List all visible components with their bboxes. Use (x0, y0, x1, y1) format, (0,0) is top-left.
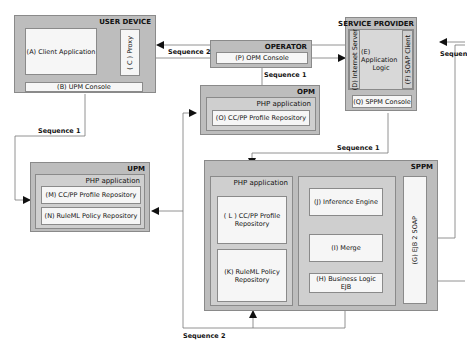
proxy: ( C ) Proxy (120, 29, 140, 76)
client-application: (A) Client Application (25, 28, 97, 75)
upm-console: (B) UPM Console (25, 82, 143, 92)
service-provider-box: SERVICE PROVIDER (D) Internet Server (E)… (345, 17, 417, 111)
upm-title: UPM (127, 165, 145, 173)
sp-inner: (D) Internet Server (E) Application Logi… (348, 29, 414, 90)
sppm-logic-container: (J) Inference Engine (I) Merge (H) Busin… (298, 176, 396, 306)
user-device-title: USER DEVICE (99, 18, 151, 26)
merge: (I) Merge (309, 234, 383, 262)
soap-client: (F) SOAP Client (402, 30, 413, 89)
operator-box: OPERATOR (P) OPM Console (210, 40, 312, 68)
sequence-right-partial-label: Sequen (440, 50, 467, 58)
sppm-policy-repository: (K) RuleML Policy Repository (217, 249, 287, 302)
user-device-box: USER DEVICE (A) Client Application ( C )… (14, 15, 156, 93)
application-logic: (E) Application Logic (361, 30, 401, 89)
sequence-1-upm-label: Sequence 1 (38, 127, 80, 135)
upm-php-app: PHP application (M) CC/PP Profile Reposi… (35, 174, 145, 229)
operator-title: OPERATOR (265, 43, 307, 51)
opm-php-app: PHP application (O) CC/PP Profile Reposi… (206, 97, 316, 131)
sppm-console: (Q) SPPM Console (352, 95, 412, 108)
sequence-1-sppm-label: Sequence 1 (337, 144, 379, 152)
upm-box: UPM PHP application (M) CC/PP Profile Re… (30, 162, 150, 232)
service-provider-title: SERVICE PROVIDER (338, 20, 414, 28)
upm-profile-repository: (M) CC/PP Profile Repository (41, 186, 141, 204)
sequence-2-top-label: Sequence 2 (168, 48, 210, 56)
opm-console: (P) OPM Console (216, 52, 308, 64)
sppm-php-app: PHP application ( L ) CC/PP Profile Repo… (210, 176, 293, 306)
opm-title: OPM (297, 88, 315, 96)
sequence-2-bottom-label: Sequence 2 (183, 332, 225, 340)
opm-profile-repository: (O) CC/PP Profile Repository (212, 110, 310, 126)
upm-policy-repository: (N) RuleML Policy Repository (41, 207, 141, 225)
business-logic-ejb: (H) Business Logic EJB (309, 273, 383, 293)
sppm-title: SPPM (411, 163, 433, 171)
sequence-1-operator-label: Sequence 1 (264, 71, 306, 79)
opm-box: OPM PHP application (O) CC/PP Profile Re… (200, 85, 320, 135)
inference-engine: (J) Inference Engine (309, 188, 383, 216)
internet-server: (D) Internet Server (349, 30, 360, 89)
ejb-2-soap: (G) EJB 2 SOAP (403, 176, 427, 304)
sppm-box: SPPM PHP application ( L ) CC/PP Profile… (204, 160, 438, 311)
sppm-profile-repository: ( L ) CC/PP Profile Repository (217, 196, 287, 244)
